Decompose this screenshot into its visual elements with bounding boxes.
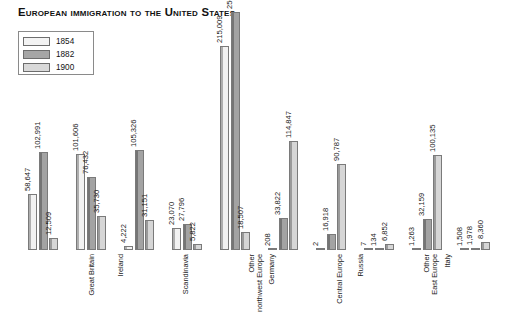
- bar: 33,822: [279, 218, 288, 250]
- bar-value-label: 102,991: [34, 122, 42, 149]
- plot-area: 58,647102,99112,509101,60676,43235,7304,…: [24, 12, 504, 250]
- bar-value-label: 33,822: [274, 192, 282, 215]
- bar-group: 20833,822114,847: [268, 12, 298, 250]
- bar-rect: [385, 244, 394, 251]
- bar: 23,070: [172, 228, 181, 250]
- bar-rect: [220, 46, 229, 250]
- bar-rect: [481, 242, 490, 250]
- bar-group: 23,07027,7965,822: [172, 12, 202, 250]
- bar-value-label: 2: [312, 242, 320, 246]
- bar-value-label: 5,822: [189, 222, 197, 241]
- bar-group: 215,009250,63018,507: [220, 12, 250, 250]
- category-label: Scandinavia: [182, 254, 190, 294]
- category-label: Ireland: [117, 254, 125, 277]
- bar-value-label: 58,647: [24, 168, 32, 191]
- chart-root: European immigration to the United State…: [0, 0, 514, 322]
- bar-value-label: 7: [360, 242, 368, 246]
- bar-rect: [172, 228, 181, 250]
- bar-rect: [145, 220, 154, 250]
- category-label: Great Britain: [88, 254, 96, 296]
- bar: 90,787: [337, 164, 346, 250]
- bar-value-label: 101,606: [72, 123, 80, 150]
- bar: 102,991: [39, 152, 48, 250]
- bar-rect: [87, 177, 96, 250]
- bar-group: 1,5081,9788,360: [460, 12, 490, 250]
- bar-rect: [316, 248, 325, 250]
- bar: 5,822: [193, 244, 202, 250]
- bar-rect: [49, 238, 58, 250]
- bar: 18,507: [241, 232, 250, 250]
- bar-value-label: 114,847: [285, 111, 293, 138]
- bar: 208: [268, 249, 277, 250]
- bar-value-label: 1,978: [466, 226, 474, 245]
- bar-value-label: 215,009: [216, 15, 224, 42]
- bar-value-label: 18,507: [237, 206, 245, 229]
- category-label: Other East Europe: [423, 254, 439, 295]
- bar: 76,432: [87, 177, 96, 250]
- bar-rect: [279, 218, 288, 250]
- category-label: Italy: [444, 254, 452, 268]
- bar-rect: [39, 152, 48, 250]
- bar-rect: [364, 248, 373, 250]
- bar: 4,222: [124, 246, 133, 250]
- bar: 100,135: [433, 155, 442, 250]
- bar-rect: [124, 246, 133, 250]
- bar-value-label: 250,630: [226, 0, 234, 9]
- bar-group: 4,222105,32631,151: [124, 12, 154, 250]
- bar-rect: [241, 232, 250, 250]
- bar-group: 101,60676,43235,730: [76, 12, 106, 250]
- category-label: Germany: [268, 254, 276, 284]
- bar-value-label: 31,151: [141, 194, 149, 217]
- bar-group: 216,91890,787: [316, 12, 346, 250]
- bar: 134: [375, 249, 384, 250]
- bar-rect: [268, 248, 277, 250]
- bar: 8,360: [481, 242, 490, 250]
- bar: 31,151: [145, 220, 154, 250]
- bar-group: 58,647102,99112,509: [28, 12, 58, 250]
- bar-value-label: 4,222: [120, 224, 128, 243]
- category-label: Russia: [357, 254, 365, 277]
- bar-value-label: 1,508: [456, 227, 464, 246]
- bar: 1,263: [412, 249, 421, 250]
- bar-rect: [97, 216, 106, 250]
- bar-value-label: 23,070: [168, 202, 176, 225]
- category-axis-labels: Great BritainIrelandScandinaviaOther nor…: [24, 252, 504, 322]
- category-label: Central Europe: [336, 254, 344, 304]
- bar-value-label: 90,787: [333, 138, 341, 161]
- bar: 6,852: [385, 244, 394, 251]
- bar-value-label: 6,852: [381, 221, 389, 240]
- bar-rect: [460, 248, 469, 250]
- bar-value-label: 1,263: [408, 227, 416, 246]
- bar: 58,647: [28, 194, 37, 250]
- bar-rect: [337, 164, 346, 250]
- bar: 16,918: [327, 234, 336, 250]
- bar-rect: [327, 234, 336, 250]
- bar-value-label: 8,360: [477, 220, 485, 239]
- bar: 2: [316, 249, 325, 250]
- bar-value-label: 35,730: [93, 190, 101, 213]
- bar-rect: [471, 248, 480, 250]
- bar-value-label: 105,326: [130, 120, 138, 147]
- bar: 1,978: [471, 248, 480, 250]
- bar-group: 71346,852: [364, 12, 394, 250]
- bar: 114,847: [289, 141, 298, 250]
- bar-value-label: 208: [264, 233, 272, 246]
- bar-group: 1,26332,159100,135: [412, 12, 442, 250]
- bar-rect: [289, 141, 298, 250]
- bar-rect: [193, 244, 202, 250]
- bar: 7: [364, 249, 373, 250]
- bar-rect: [423, 219, 432, 250]
- bar-value-label: 27,796: [178, 197, 186, 220]
- bar-value-label: 134: [370, 233, 378, 246]
- bar-rect: [375, 248, 384, 250]
- bar-rect: [28, 194, 37, 250]
- bar-value-label: 12,509: [45, 212, 53, 235]
- bar: 215,009: [220, 46, 229, 250]
- bar: 12,509: [49, 238, 58, 250]
- bar-rect: [433, 155, 442, 250]
- bar: 35,730: [97, 216, 106, 250]
- bar-value-label: 100,135: [429, 124, 437, 151]
- bar-value-label: 16,918: [322, 208, 330, 231]
- bar: 1,508: [460, 249, 469, 250]
- bar: 32,159: [423, 219, 432, 250]
